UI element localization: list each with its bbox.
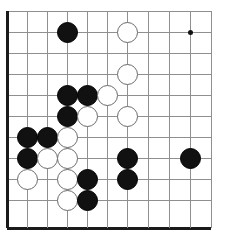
black-stone-c5-r5[interactable]	[77, 85, 98, 106]
board-edge-bottom	[7, 227, 211, 230]
black-stone-c3-r7[interactable]	[37, 127, 58, 148]
grid-line-vertical-2	[27, 11, 28, 228]
star-point-c10-r2	[188, 30, 193, 35]
grid-line-horizontal-9	[7, 179, 211, 180]
white-stone-c4-r9[interactable]	[57, 169, 78, 190]
black-stone-c7-r8[interactable]	[117, 148, 138, 169]
grid-line-horizontal-1	[7, 11, 211, 12]
grid-line-vertical-9	[169, 11, 170, 228]
grid-line-vertical-10	[190, 11, 191, 228]
board-edge-left	[6, 11, 9, 228]
black-stone-c5-r9[interactable]	[77, 169, 98, 190]
black-stone-c4-r5[interactable]	[57, 85, 78, 106]
black-stone-c2-r7[interactable]	[17, 127, 38, 148]
white-stone-c6-r5[interactable]	[97, 85, 118, 106]
white-stone-c5-r6[interactable]	[77, 106, 98, 127]
white-stone-c7-r2[interactable]	[117, 22, 138, 43]
black-stone-c7-r9[interactable]	[117, 169, 138, 190]
white-stone-c7-r4[interactable]	[117, 64, 138, 85]
black-stone-c2-r8[interactable]	[17, 148, 38, 169]
go-board-container	[0, 0, 229, 235]
black-stone-c5-r10[interactable]	[77, 190, 98, 211]
grid-line-horizontal-3	[7, 53, 211, 54]
white-stone-c4-r7[interactable]	[57, 127, 78, 148]
grid-line-vertical-11	[211, 11, 212, 228]
black-stone-c4-r6[interactable]	[57, 106, 78, 127]
grid-line-horizontal-10	[7, 200, 211, 201]
white-stone-c2-r9[interactable]	[17, 169, 38, 190]
grid-line-vertical-3	[47, 11, 48, 228]
goban-grid[interactable]	[0, 0, 229, 235]
grid-line-vertical-8	[148, 11, 149, 228]
grid-line-vertical-6	[107, 11, 108, 228]
grid-line-horizontal-6	[7, 116, 211, 117]
grid-line-horizontal-4	[7, 74, 211, 75]
white-stone-c7-r6[interactable]	[117, 106, 138, 127]
white-stone-c3-r8[interactable]	[37, 148, 58, 169]
black-stone-c10-r8[interactable]	[180, 148, 201, 169]
black-stone-c4-r2[interactable]	[57, 22, 78, 43]
white-stone-c4-r10[interactable]	[57, 190, 78, 211]
grid-line-horizontal-2	[7, 32, 211, 33]
white-stone-c4-r8[interactable]	[57, 148, 78, 169]
